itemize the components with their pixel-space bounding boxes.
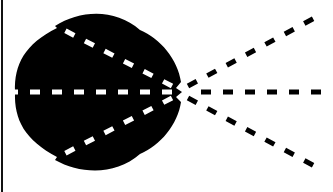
outer-dashed-lines	[188, 14, 333, 170]
outer-line-upper	[188, 14, 322, 86]
radiation-pattern-diagram	[0, 0, 333, 192]
outer-line-lower	[188, 98, 322, 170]
